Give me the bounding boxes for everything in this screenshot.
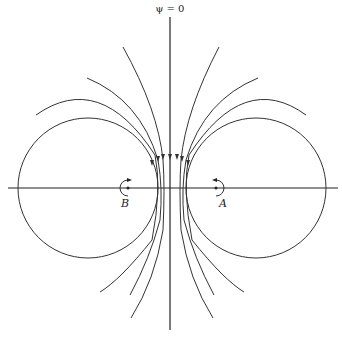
point-b (127, 187, 130, 190)
streamline-right-2 (183, 78, 258, 295)
streamline-diagram: ψ = 0 B A (0, 0, 342, 337)
streamline-right-1 (186, 99, 306, 292)
streamline-left-2 (87, 78, 161, 295)
label-a: A (218, 197, 227, 210)
arrow-icon (161, 154, 165, 160)
arrow-icon (168, 154, 172, 160)
rotation-arrowhead-b-icon (127, 178, 132, 182)
label-b: B (120, 197, 129, 210)
point-a (215, 187, 218, 190)
arrow-icon (175, 154, 179, 160)
psi-zero-label: ψ = 0 (156, 3, 185, 14)
streamline-left-1 (36, 99, 158, 292)
rotation-arrowhead-a-icon (212, 178, 217, 182)
